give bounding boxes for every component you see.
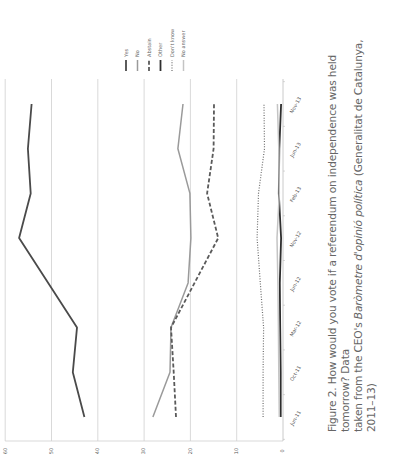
category-tick-label: Mar-12 <box>288 320 302 338</box>
value-tick-label: 50 <box>48 448 54 454</box>
series-line-no <box>153 104 191 417</box>
legend-label: Abstain <box>146 38 152 57</box>
series-line-no-answer <box>277 104 279 417</box>
legend-label: Other <box>157 42 163 57</box>
caption-line-2: taken from the CEO's Baròmetre d'opinió … <box>352 12 378 432</box>
figure-caption: Figure 2. How would you vote if a refere… <box>326 12 378 432</box>
value-tick-label: 10 <box>233 448 239 454</box>
value-tick-label: 40 <box>94 448 100 454</box>
legend-label: No <box>134 50 140 57</box>
category-axis <box>283 79 285 441</box>
category-tick-label: Jun-13 <box>288 141 302 159</box>
category-tick-label: Nov-12 <box>288 230 302 248</box>
series-line-don-t-know <box>257 104 264 417</box>
value-tick-label: 60 <box>2 448 8 454</box>
legend-label: Yes <box>123 49 129 58</box>
caption-source-title: Baròmetre d'opinió política <box>352 180 364 320</box>
value-axis-tick-labels: 0102030405060 <box>2 448 286 454</box>
value-tick-label: 0 <box>279 449 285 452</box>
legend-label: No answer <box>180 30 186 57</box>
caption-line-1: Figure 2. How would you vote if a refere… <box>326 12 352 432</box>
category-tick-label: Feb-13 <box>288 186 302 204</box>
legend: YesNoAbstainOtherDon't knowNo answer <box>123 29 187 71</box>
legend-label: Don't know <box>169 29 175 57</box>
category-tick-label: Oct-11 <box>288 365 302 383</box>
category-tick-label: Nov-13 <box>288 96 302 114</box>
category-tick-label: Jun-12 <box>288 275 302 293</box>
data-series <box>19 104 281 417</box>
gridlines <box>5 79 283 441</box>
category-tick-label: Jun-11 <box>288 410 302 428</box>
category-axis-tick-labels: Jun-11Oct-11Mar-12Jun-12Nov-12Feb-13Jun-… <box>288 96 302 427</box>
value-tick-label: 30 <box>140 448 146 454</box>
value-tick-label: 20 <box>187 448 193 454</box>
